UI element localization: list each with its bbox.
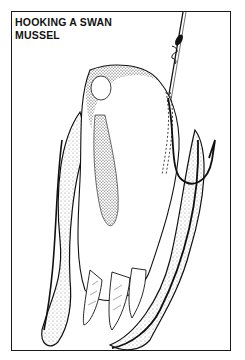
fishing-line xyxy=(168,12,186,100)
swan-mussel-illustration xyxy=(0,0,245,360)
mussel-gill-3 xyxy=(129,268,146,318)
mussel-knob xyxy=(91,76,111,100)
mussel-gill-2 xyxy=(109,272,130,330)
